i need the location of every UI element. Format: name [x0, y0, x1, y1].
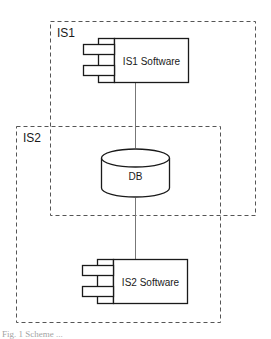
database-db-label: DB	[129, 171, 143, 182]
component-is1-software-label: IS1 Software	[123, 56, 181, 67]
component-is1-software[interactable]: IS1 Software	[84, 39, 189, 83]
component-is2-software[interactable]: IS2 Software	[83, 260, 188, 304]
component-is2-software-label: IS2 Software	[122, 277, 180, 288]
container-is1-label: IS1	[57, 26, 75, 40]
database-db[interactable]: DB	[102, 149, 170, 197]
figure-caption: Fig. 1 Scheme ...	[2, 329, 63, 339]
container-is2-label: IS2	[23, 131, 41, 145]
